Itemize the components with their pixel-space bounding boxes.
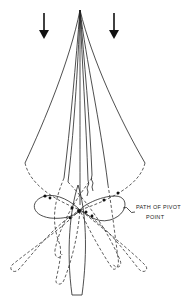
parachute-oscillation-diagram xyxy=(0,0,196,307)
suspension-lines xyxy=(25,10,145,205)
flow-arrow-right xyxy=(109,13,119,39)
flow-arrow-left xyxy=(39,13,49,39)
canopy-positions xyxy=(11,163,147,284)
canopy-center xyxy=(69,185,85,295)
annotation-path-of-pivot: PATH OF PIVOT xyxy=(136,204,181,210)
annotation-point: POINT xyxy=(146,214,164,220)
annotation-leader xyxy=(123,207,135,212)
